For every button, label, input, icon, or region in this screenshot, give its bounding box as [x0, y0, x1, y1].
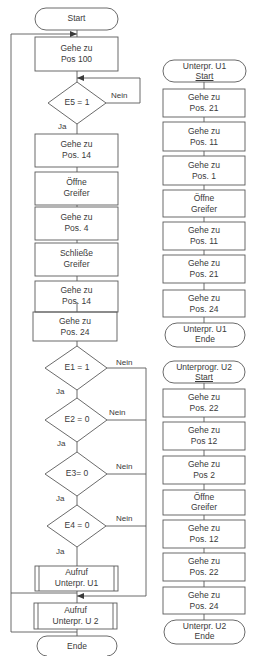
u2-step-line1: Gehe zu: [163, 556, 245, 567]
end-label: Ende: [37, 641, 117, 652]
no-label: Nein: [116, 462, 132, 471]
yes-label: Ja: [57, 439, 65, 448]
decision-e3: E3= 0: [50, 468, 104, 479]
decision-e2: E2 = 0: [50, 414, 104, 425]
step-line1: Gehe zu: [35, 212, 118, 223]
no-label: Nein: [116, 514, 132, 523]
u2-step-line1: Gehe zu: [163, 459, 245, 470]
arrow-icon: [77, 75, 84, 81]
u1-step-line1: Gehe zu: [163, 126, 245, 137]
step-line1: Gehe zu: [33, 316, 117, 327]
u2-start-line2: Start: [163, 372, 245, 383]
u2-end-line2: Ende: [164, 631, 245, 642]
u1-step-line2: Pos. 21: [163, 103, 245, 114]
call-u1-line1: Aufruf: [35, 567, 118, 578]
u1-step-line2: Pos. 11: [163, 236, 245, 247]
u1-start-line2: Start: [163, 71, 246, 82]
u2-step-line2: Greifer: [163, 502, 245, 513]
decision-e5: E5 = 1: [50, 97, 104, 108]
u1-step-line2: Pos. 11: [163, 137, 245, 148]
u2-step-line1: Gehe zu: [163, 392, 245, 403]
u1-step-line1: Gehe zu: [163, 293, 245, 304]
no-label: Nein: [109, 408, 125, 417]
step-line2: Pos. 14: [35, 296, 118, 307]
u1-step-line1: Gehe zu: [163, 160, 245, 171]
step-line1: Schließe: [35, 248, 118, 259]
step-line1: Gehe zu: [35, 139, 118, 150]
u2-step-line2: Pos. 22: [163, 403, 245, 414]
call-u2-line1: Aufruf: [34, 605, 117, 616]
step-line1: Öffne: [35, 177, 118, 188]
u2-step-line2: Pos 12: [163, 436, 245, 447]
u2-step-line2: Pos. 22: [163, 567, 245, 578]
call-u2-line2: Unterpr. U 2: [34, 616, 117, 627]
step-line2: Greifer: [35, 188, 118, 199]
u2-step-line1: Gehe zu: [163, 590, 245, 601]
no-label: Nein: [116, 358, 132, 367]
arrow-icon: [70, 31, 77, 37]
u1-step-line2: Pos. 24: [163, 304, 245, 315]
u2-step-line1: Gehe zu: [163, 523, 245, 534]
u2-step-line2: Pos. 12: [163, 534, 245, 545]
step-line2: Pos 100: [35, 54, 118, 65]
yes-label: Ja: [56, 547, 64, 556]
u1-step-line1: Öffne: [163, 193, 245, 204]
u1-step-line1: Gehe zu: [163, 92, 245, 103]
no-label: Nein: [111, 91, 127, 100]
decision-e1: E1 = 1: [50, 362, 104, 373]
u1-step-line2: Pos. 21: [163, 269, 245, 280]
u2-step-line2: Pos. 24: [163, 601, 245, 612]
u1-step-line2: Pos. 1: [163, 171, 245, 182]
step-line1: Gehe zu: [35, 43, 118, 54]
u2-step-line2: Pos 2: [163, 470, 245, 481]
step-line2: Pos. 14: [35, 150, 118, 161]
yes-label: Ja: [58, 122, 66, 131]
decision-e4: E4 = 0: [50, 520, 104, 531]
call-u1-line2: Unterpr. U1: [35, 578, 118, 589]
yes-label: Ja: [56, 387, 64, 396]
u1-end-line2: Ende: [165, 334, 245, 345]
u1-step-line1: Gehe zu: [163, 225, 245, 236]
step-line1: Gehe zu: [35, 285, 118, 296]
step-line2: Pos. 24: [33, 327, 117, 338]
u2-step-line1: Gehe zu: [163, 425, 245, 436]
start-label: Start: [35, 13, 118, 24]
u1-step-line2: Greifer: [163, 204, 245, 215]
u1-step-line1: Gehe zu: [163, 258, 245, 269]
yes-label: Ja: [56, 494, 64, 503]
step-line2: Greifer: [35, 259, 118, 270]
arrow-icon: [77, 593, 84, 599]
step-line2: Pos. 4: [35, 223, 118, 234]
